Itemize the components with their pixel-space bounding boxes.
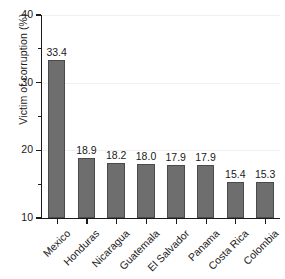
x-tick: [86, 219, 87, 224]
y-tick-minor: [38, 116, 42, 117]
bar: [107, 163, 125, 219]
y-axis-title: Victim of corruption (%): [16, 0, 30, 139]
y-tick-label: 40: [0, 8, 33, 20]
x-axis-line: [41, 218, 280, 219]
y-tick-label: 30: [0, 76, 33, 88]
y-tick-label: 20: [0, 143, 33, 155]
x-tick: [176, 219, 177, 224]
bar: [137, 164, 155, 218]
gridline: [42, 83, 280, 84]
y-tick-label: 10: [0, 211, 33, 223]
x-tick: [146, 219, 147, 224]
bar: [167, 165, 185, 219]
y-tick-major: [36, 82, 41, 83]
bar: [256, 182, 274, 218]
bar-value-label: 15.3: [245, 168, 285, 180]
y-tick-major: [36, 217, 41, 218]
x-tick: [116, 219, 117, 224]
bar: [197, 165, 215, 219]
y-tick-major: [36, 150, 41, 151]
x-tick: [57, 219, 58, 224]
bar-value-label: 33.4: [37, 46, 77, 58]
bar-chart: Victim of corruption (%) 40302010 33.418…: [0, 0, 285, 279]
y-tick-minor: [38, 184, 42, 185]
y-tick-major: [36, 14, 41, 15]
bar: [48, 60, 66, 218]
x-tick: [206, 219, 207, 224]
bar: [227, 182, 245, 219]
bar: [78, 158, 96, 218]
gridline: [42, 15, 280, 16]
bar-value-label: 17.9: [186, 151, 226, 163]
x-tick: [265, 219, 266, 224]
x-tick: [235, 219, 236, 224]
